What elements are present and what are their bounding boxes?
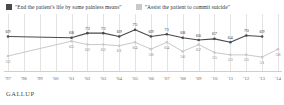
x-axis-tick: '07 bbox=[164, 76, 170, 82]
data-label: 52 bbox=[6, 59, 11, 64]
data-point bbox=[166, 33, 169, 36]
legend-label: "End the patient's life by some painless… bbox=[15, 4, 122, 10]
data-point bbox=[150, 35, 153, 38]
x-axis-tick: '97 bbox=[5, 76, 11, 82]
data-label: 72 bbox=[101, 26, 106, 31]
x-axis-tick: '13 bbox=[259, 76, 265, 82]
data-label: 69 bbox=[6, 29, 11, 34]
data-point bbox=[86, 32, 89, 35]
x-axis-tick: '12 bbox=[243, 76, 249, 82]
data-label: 69 bbox=[117, 29, 122, 34]
data-label: 69 bbox=[148, 29, 153, 34]
data-point bbox=[277, 48, 280, 51]
data-point bbox=[70, 40, 73, 43]
legend-swatch-icon bbox=[6, 4, 12, 10]
legend-item-assist-suicide: "Assist the patient to commit suicide" bbox=[136, 4, 230, 10]
x-axis-tick: '04 bbox=[116, 76, 122, 82]
chart-legend: "End the patient's life by some painless… bbox=[0, 1, 284, 13]
data-point bbox=[181, 36, 184, 39]
x-axis-tick: '00 bbox=[53, 76, 59, 82]
data-label: 61 bbox=[117, 48, 122, 53]
data-point bbox=[245, 54, 248, 57]
data-label: 55 bbox=[212, 55, 217, 60]
x-axis-tick: '08 bbox=[180, 76, 186, 82]
data-point bbox=[197, 43, 200, 46]
x-axis-tick: '11 bbox=[227, 76, 233, 82]
data-point bbox=[86, 43, 89, 46]
data-point bbox=[229, 54, 232, 57]
gallup-brand: GALLUP bbox=[6, 90, 35, 97]
data-label: 68 bbox=[180, 30, 185, 35]
gallup-line-chart: "End the patient's life by some painless… bbox=[0, 0, 284, 105]
x-axis-tick: '02 bbox=[84, 76, 90, 82]
data-point bbox=[102, 32, 105, 35]
data-label: 67 bbox=[212, 31, 217, 36]
data-label: 69 bbox=[260, 29, 265, 34]
data-label: 75 bbox=[133, 22, 138, 27]
series-lines bbox=[0, 14, 284, 72]
data-point bbox=[261, 56, 264, 59]
data-label: 64 bbox=[164, 45, 169, 50]
data-label: 62 bbox=[85, 47, 90, 52]
data-point bbox=[7, 35, 10, 38]
x-axis: '97'98'99'00'01'02'03'04'05'06'07'08'09'… bbox=[0, 74, 284, 86]
data-label: 62 bbox=[101, 47, 106, 52]
x-axis-tick: '06 bbox=[148, 76, 154, 82]
data-point bbox=[134, 41, 137, 44]
data-point bbox=[181, 50, 184, 53]
data-point bbox=[197, 39, 200, 42]
plot-area: 6968727269756971686667647069526562626164… bbox=[0, 14, 284, 72]
data-label: 68 bbox=[69, 30, 74, 35]
x-axis-tick: '14 bbox=[275, 76, 281, 82]
data-label: 51 bbox=[260, 60, 265, 65]
x-axis-tick: '98 bbox=[21, 76, 27, 82]
data-point bbox=[166, 41, 169, 44]
legend-label: "Assist the patient to commit suicide" bbox=[145, 4, 230, 10]
data-point bbox=[213, 51, 216, 54]
data-label: 62 bbox=[196, 47, 201, 52]
data-point bbox=[102, 43, 105, 46]
data-label: 72 bbox=[85, 26, 90, 31]
x-axis-tick: '10 bbox=[212, 76, 218, 82]
data-point bbox=[118, 35, 121, 38]
data-point bbox=[213, 38, 216, 41]
x-axis-tick: '09 bbox=[196, 76, 202, 82]
data-point bbox=[261, 35, 264, 38]
data-label: 71 bbox=[164, 27, 169, 32]
data-label: 64 bbox=[133, 45, 138, 50]
data-point bbox=[7, 55, 10, 58]
data-point bbox=[134, 28, 137, 31]
data-point bbox=[118, 44, 121, 47]
series-line bbox=[8, 30, 262, 43]
legend-item-end-patient-life: "End the patient's life by some painless… bbox=[6, 4, 122, 10]
data-point bbox=[229, 41, 232, 44]
x-axis-tick: '05 bbox=[132, 76, 138, 82]
x-axis-tick: '03 bbox=[100, 76, 106, 82]
data-label: 56 bbox=[180, 54, 185, 59]
data-label: 58 bbox=[276, 52, 281, 57]
data-label: 66 bbox=[196, 33, 201, 38]
data-label: 58 bbox=[148, 52, 153, 57]
data-label: 64 bbox=[228, 35, 233, 40]
x-axis-tick: '01 bbox=[69, 76, 75, 82]
data-point bbox=[70, 36, 73, 39]
series-line bbox=[8, 41, 278, 57]
data-label: 65 bbox=[69, 44, 74, 49]
data-point bbox=[150, 48, 153, 51]
legend-swatch-icon bbox=[136, 4, 142, 10]
x-axis-tick: '99 bbox=[37, 76, 43, 82]
data-label: 53 bbox=[244, 57, 249, 62]
data-label: 70 bbox=[244, 28, 249, 33]
data-point bbox=[245, 34, 248, 37]
data-label: 53 bbox=[228, 57, 233, 62]
